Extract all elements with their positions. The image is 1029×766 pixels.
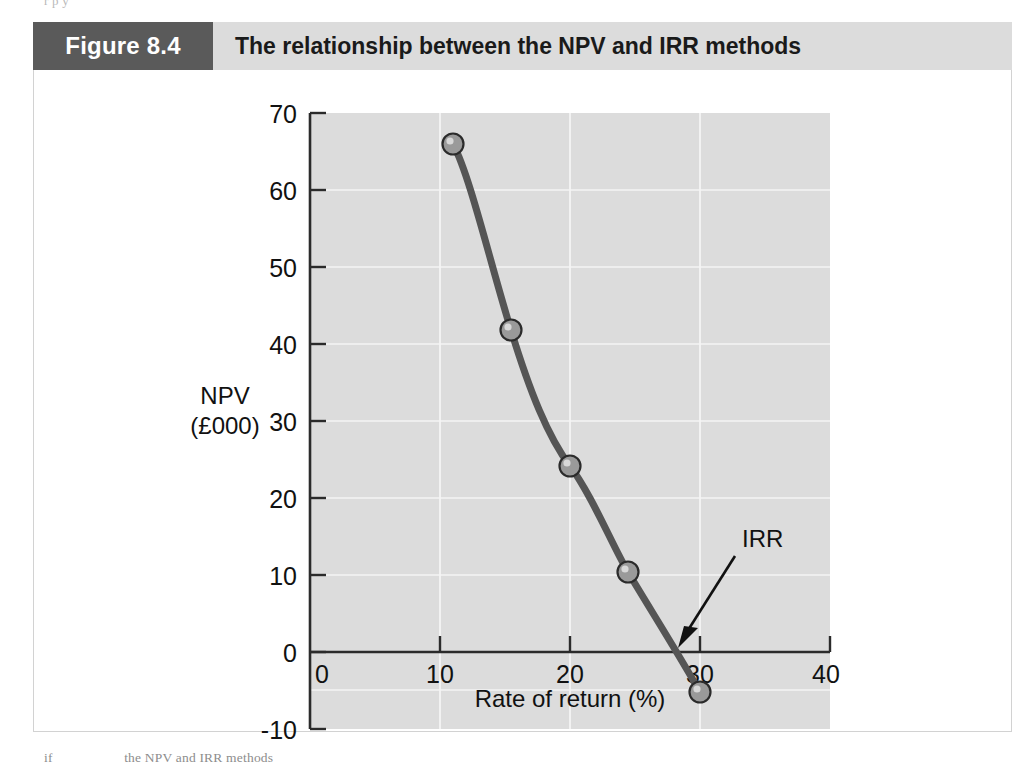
clipped-page-text-bottom: if the NPV and IRR methods (44, 750, 459, 766)
figure-number-label: Figure 8.4 (65, 32, 180, 60)
figure-header: Figure 8.4 The relationship between the … (33, 22, 1012, 70)
figure-body-frame (33, 70, 1012, 732)
figure-number-block: Figure 8.4 (33, 22, 213, 70)
figure-title-block: The relationship between the NPV and IRR… (213, 22, 1012, 70)
clipped-page-text-top: r p y (44, 0, 69, 9)
figure-title-label: The relationship between the NPV and IRR… (213, 33, 801, 60)
